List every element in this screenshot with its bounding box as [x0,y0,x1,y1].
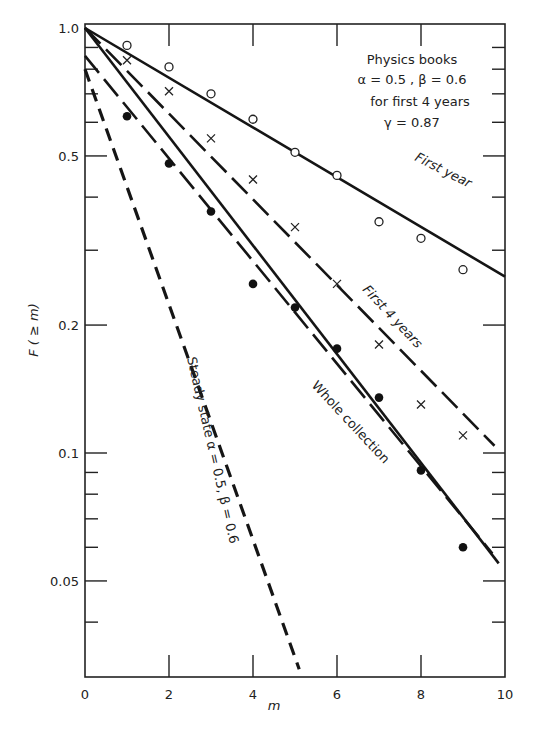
open-circle-marker [165,63,173,71]
cross-marker [165,87,173,95]
filled-circle-marker [375,393,384,402]
cross-marker [375,341,383,349]
y-tick-label: 0.5 [58,149,79,164]
x-tick-label: 8 [417,687,425,702]
label-steady-state: Steady state α = 0.5, β = 0.6 [184,355,242,545]
x-tick-label: 4 [249,687,257,702]
cross-marker [417,401,425,409]
y-tick-label: 0.1 [58,446,79,461]
annotation-box: Physics booksα = 0.5 , β = 0.6for first … [358,52,471,130]
filled-circle-marker [165,159,174,168]
y-axis-label: F ( ≥ m) [26,303,41,357]
open-circle-marker [123,41,131,49]
open-circle-marker [207,90,215,98]
filled-circle-marker [123,112,132,121]
open-circle-marker [249,115,257,123]
y-axis: 1.00.50.20.10.05F ( ≥ m) [26,21,505,622]
x-tick-label: 0 [81,687,89,702]
cross-marker [249,176,257,184]
filled-circle-marker [333,344,342,353]
cross-marker [291,223,299,231]
annotation-line-1: Physics books [367,52,458,67]
filled-circle-marker [417,466,426,475]
filled-circle-marker [459,543,468,552]
annotation-line-4: γ = 0.87 [384,115,440,130]
annotation-line-2: α = 0.5 , β = 0.6 [358,72,467,87]
open-circle-marker [459,266,467,274]
label-whole-collection: Whole collection [309,378,393,467]
cross-marker [123,56,131,64]
x-axis-label: m [268,698,281,713]
label-first-year: First year [413,149,476,191]
open-circle-marker [333,171,341,179]
filled-circle-marker [207,207,216,216]
plot-frame [85,24,505,677]
open-circle-marker [291,148,299,156]
x-tick-label: 6 [333,687,341,702]
annotation-line-3: for first 4 years [370,94,470,109]
x-tick-label: 2 [165,687,173,702]
cross-marker [207,134,215,142]
y-tick-label: 0.05 [50,574,79,589]
y-tick-label: 1.0 [58,21,79,36]
cross-marker [459,431,467,439]
open-circle-marker [417,234,425,242]
x-tick-label: 10 [497,687,514,702]
open-circle-marker [375,218,383,226]
fit-line-dashed-whole-collection [85,56,492,554]
y-tick-label: 0.2 [58,318,79,333]
x-axis: 0246810m [81,24,513,713]
series-markers [123,56,467,439]
chart-canvas: 0246810m1.00.50.20.10.05F ( ≥ m)First ye… [0,0,538,733]
filled-circle-marker [249,280,258,289]
filled-circle-marker [291,303,300,312]
